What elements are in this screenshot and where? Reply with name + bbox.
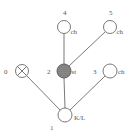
tree-diagram: 0 1 K/L 2 st 3 ch 4 ch 5 ch — [0, 0, 129, 140]
edge-2-5 — [69, 32, 105, 66]
node-4: 4 ch — [58, 9, 78, 36]
edge-1-2 — [64, 78, 65, 108]
filled-circle-icon — [57, 64, 71, 78]
node-5-label: 5 — [109, 9, 113, 17]
node-1-label: 1 — [50, 124, 54, 132]
node-5-tag: ch — [117, 28, 124, 36]
node-5: 5 ch — [104, 9, 124, 36]
node-3-tag: ch — [118, 68, 125, 76]
node-2: 2 st — [47, 64, 76, 78]
node-3-label: 3 — [93, 68, 97, 76]
edge-1-3 — [70, 76, 105, 110]
open-circle-icon — [104, 21, 117, 34]
node-4-label: 4 — [63, 9, 67, 17]
node-2-label: 2 — [47, 68, 51, 76]
open-circle-icon — [58, 108, 72, 122]
node-1-tag: K/L — [74, 114, 85, 122]
node-0-label: 0 — [4, 68, 8, 76]
node-3: 3 ch — [93, 64, 125, 78]
node-0: 0 — [4, 65, 29, 78]
edge-1-0 — [27, 76, 60, 110]
open-circle-icon — [103, 64, 117, 78]
node-2-tag: st — [72, 68, 77, 76]
node-4-tag: ch — [71, 28, 78, 36]
node-1: 1 K/L — [50, 108, 85, 132]
open-circle-icon — [58, 21, 71, 34]
